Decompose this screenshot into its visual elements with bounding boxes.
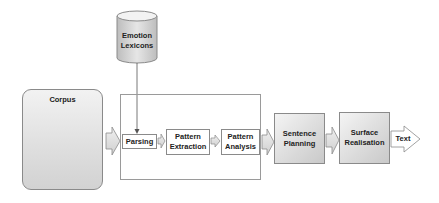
block-arrow-extraction-to-analysis: [211, 135, 220, 147]
arrows-layer: [0, 0, 439, 203]
emotion-lexicons-label-line2: Lexicons: [117, 41, 157, 51]
output-text-label: Text: [392, 134, 414, 144]
emotion-lexicons-label-line1: Emotion: [117, 31, 157, 41]
block-arrow-corpus-to-parsing: [106, 127, 120, 155]
block-arrow-frame-to-sentence-planning: [262, 129, 274, 155]
block-arrow-sentence-to-surface: [326, 127, 339, 154]
block-arrow-parsing-to-extraction: [158, 134, 165, 148]
